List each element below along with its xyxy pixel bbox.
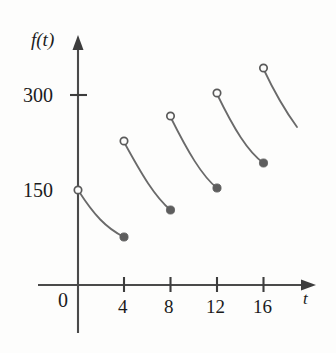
x-tick-label-8: 8 [164,297,174,316]
curve-segment-2 [124,142,171,210]
chart-figure: f(t) t 300 150 0 4 8 12 16 [0,0,336,353]
endpoint-open-t8 [167,112,174,119]
endpoint-open-t4 [120,137,127,144]
x-tick-label-16: 16 [253,297,272,316]
curve-segment-3 [171,117,218,188]
x-tick-label-12: 12 [206,297,225,316]
x-axis-label: t [303,290,308,307]
endpoint-closed-t4 [120,233,128,241]
y-axis-arrowhead [73,35,84,50]
endpoint-open-t12 [213,89,220,96]
endpoint-closed-t12 [213,184,221,192]
y-tick-label-300: 300 [23,85,53,105]
y-tick-label-150: 150 [23,180,53,200]
curve-segment-5 [264,69,298,127]
curve-segment-1 [78,190,124,237]
endpoint-open-t0 [74,186,81,193]
y-axis-label: f(t) [31,30,54,49]
endpoint-open-t16 [260,64,267,71]
endpoint-closed-t16 [259,159,267,167]
origin-label: 0 [58,290,68,310]
x-tick-label-4: 4 [118,297,128,316]
endpoint-closed-t8 [166,206,174,214]
curve-segment-4 [217,94,264,163]
